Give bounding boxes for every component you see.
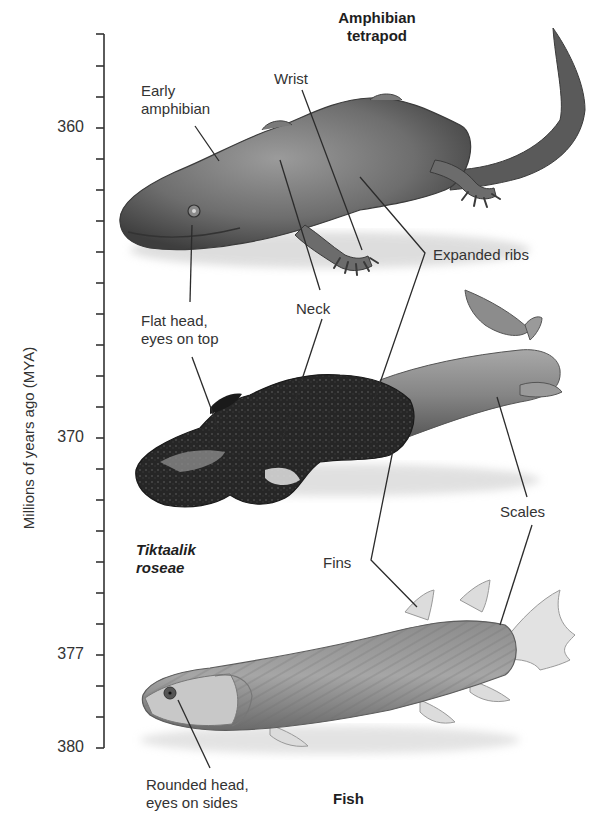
species-epithet: roseae bbox=[136, 559, 196, 577]
label-line: amphibian bbox=[141, 100, 210, 118]
label-neck: Neck bbox=[296, 300, 330, 318]
axis-title: Millions of years ago (MYA) bbox=[20, 347, 37, 529]
evolution-diagram: 360 370 377 380 Millions of years ago (M… bbox=[0, 0, 589, 817]
label-flat-head: Flat head, eyes on top bbox=[141, 312, 219, 348]
label-line: eyes on top bbox=[141, 330, 219, 348]
tick-label-377: 377 bbox=[44, 645, 84, 663]
label-expanded-ribs: Expanded ribs bbox=[433, 246, 529, 264]
title-line-2: tetrapod bbox=[322, 27, 432, 45]
fish-illustration bbox=[140, 580, 575, 754]
label-line: Flat head, bbox=[141, 312, 219, 330]
label-line: eyes on sides bbox=[146, 794, 249, 812]
label-rounded-head: Rounded head, eyes on sides bbox=[146, 776, 249, 812]
species-genus: Tiktaalik bbox=[136, 541, 196, 559]
tiktaalik-species-label: Tiktaalik roseae bbox=[136, 541, 196, 577]
tick-label-370: 370 bbox=[44, 428, 84, 446]
illustration-canvas bbox=[0, 0, 589, 817]
fish-title: Fish bbox=[333, 790, 364, 808]
label-line: Early bbox=[141, 82, 210, 100]
label-wrist: Wrist bbox=[274, 70, 308, 88]
amphibian-tetrapod-illustration bbox=[120, 28, 585, 275]
label-line: Rounded head, bbox=[146, 776, 249, 794]
label-scales: Scales bbox=[500, 503, 545, 521]
label-fins: Fins bbox=[323, 554, 351, 572]
tick-label-360: 360 bbox=[44, 118, 84, 136]
amphibian-tetrapod-title: Amphibian tetrapod bbox=[322, 9, 432, 45]
tick-label-380: 380 bbox=[44, 738, 84, 756]
label-early-amphibian: Early amphibian bbox=[141, 82, 210, 118]
time-axis bbox=[96, 34, 104, 748]
title-line-1: Amphibian bbox=[322, 9, 432, 27]
